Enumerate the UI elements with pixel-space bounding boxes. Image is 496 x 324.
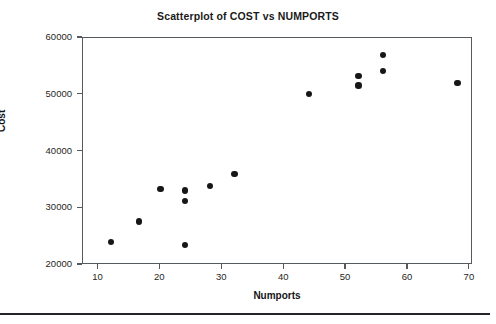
data-point [380,52,386,58]
x-tick-mark [221,264,222,269]
data-point [182,187,188,193]
data-point [182,198,188,204]
y-tick-label: 50000 [14,88,72,99]
data-point [108,239,114,245]
x-tick-mark [406,264,407,269]
x-tick-label: 70 [449,271,489,282]
chart-title: Scatterplot of COST vs NUMPORTS [0,10,496,22]
x-tick-mark [159,264,160,269]
x-tick-label: 20 [139,271,179,282]
data-point [355,73,361,79]
y-tick-label: 60000 [14,31,72,42]
x-tick-mark [97,264,98,269]
x-tick-label: 30 [201,271,241,282]
data-point [207,183,213,189]
x-axis-title: Numports [82,290,472,301]
data-point [355,82,361,88]
data-point [380,68,386,74]
data-point [157,186,163,192]
data-point [454,80,460,86]
x-tick-mark [468,264,469,269]
data-points-layer [83,38,471,263]
x-tick-label: 60 [387,271,427,282]
x-tick-mark [283,264,284,269]
data-point [182,242,188,248]
y-axis-title: Cost [0,110,7,132]
data-point [231,171,237,177]
x-tick-mark [344,264,345,269]
bottom-divider [0,313,490,315]
scatterplot-figure: Scatterplot of COST vs NUMPORTS Cost 200… [0,0,496,310]
y-tick-label: 40000 [14,145,72,156]
y-tick-label: 20000 [14,258,72,269]
x-tick-label: 40 [263,271,303,282]
data-point [136,218,142,224]
x-tick-label: 10 [77,271,117,282]
data-point [306,91,312,97]
plot-area [82,37,472,264]
x-tick-label: 50 [325,271,365,282]
y-tick-label: 30000 [14,201,72,212]
